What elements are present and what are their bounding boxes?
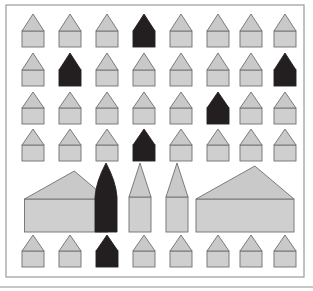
tower-body — [166, 197, 188, 232]
house-body — [133, 31, 155, 47]
house-body — [96, 70, 118, 86]
house-body — [240, 108, 262, 124]
house-body — [240, 145, 262, 161]
building-body — [196, 199, 294, 232]
figure-root — [0, 0, 313, 291]
house-body — [96, 251, 118, 267]
house-body — [274, 70, 296, 86]
house-body — [96, 31, 118, 47]
house-body — [133, 70, 155, 86]
house-body — [170, 251, 192, 267]
house-body — [170, 70, 192, 86]
house-body — [274, 251, 296, 267]
pictogram-svg — [0, 0, 313, 291]
house-body — [274, 145, 296, 161]
tower-body — [129, 197, 151, 232]
house-body — [133, 108, 155, 124]
house-body — [22, 108, 44, 124]
house-body — [22, 31, 44, 47]
house-body — [207, 108, 229, 124]
house-body — [59, 31, 81, 47]
house-body — [59, 108, 81, 124]
house-body — [274, 108, 296, 124]
house-body — [59, 145, 81, 161]
house-body — [59, 251, 81, 267]
house-body — [207, 145, 229, 161]
house-body — [96, 108, 118, 124]
house-body — [96, 145, 118, 161]
house-body — [22, 145, 44, 161]
house-body — [274, 31, 296, 47]
house-body — [59, 70, 81, 86]
house-body — [22, 251, 44, 267]
house-body — [207, 31, 229, 47]
house-body — [207, 251, 229, 267]
house-body — [240, 251, 262, 267]
house-body — [240, 31, 262, 47]
house-body — [133, 251, 155, 267]
house-body — [170, 145, 192, 161]
house-body — [207, 70, 229, 86]
house-body — [170, 31, 192, 47]
house-body — [22, 70, 44, 86]
house-body — [170, 108, 192, 124]
house-body — [133, 145, 155, 161]
house-body — [240, 70, 262, 86]
